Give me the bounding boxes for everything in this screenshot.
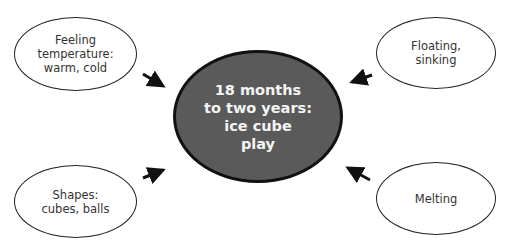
arrow-bottom-right <box>348 168 370 180</box>
arrow-top-right <box>352 75 372 82</box>
arrow-bottom-left <box>143 170 163 178</box>
node-melting: Melting <box>376 162 496 235</box>
node-feeling-temperature: Feeling temperature: warm, cold <box>14 17 137 91</box>
central-topic: 18 months to two years: ice cube play <box>173 50 343 183</box>
arrow-top-left <box>143 74 163 86</box>
node-floating-sinking: Floating, sinking <box>376 17 496 89</box>
node-shapes: Shapes: cubes, balls <box>14 165 137 238</box>
